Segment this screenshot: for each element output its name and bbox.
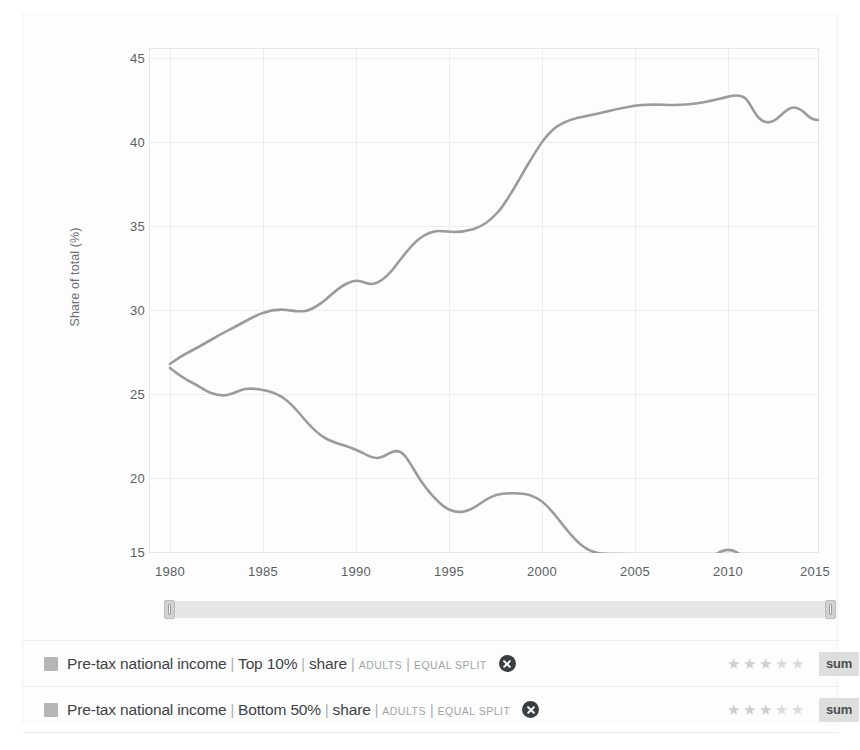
y-axis-label: Share of total (%) — [68, 187, 82, 367]
x-tick: 2010 — [713, 564, 743, 579]
y-tick: 45 — [111, 51, 145, 66]
star-icon[interactable]: ★ — [791, 702, 804, 717]
y-tick: 35 — [111, 219, 145, 234]
app-root: Share of total (%) 45 40 35 30 25 20 15 — [0, 0, 860, 750]
chart-area: Share of total (%) 45 40 35 30 25 20 15 — [23, 12, 839, 587]
y-axis-ticks: 45 40 35 30 25 20 15 — [109, 12, 145, 587]
star-icon[interactable]: ★ — [791, 656, 804, 671]
y-tick: 20 — [111, 471, 145, 486]
slider-handle-start[interactable] — [164, 600, 175, 619]
series-legend-list: Pre-tax national income | Top 10% | shar… — [23, 640, 839, 733]
y-tick: 15 — [111, 545, 145, 560]
slider-handle-end[interactable] — [825, 600, 836, 619]
series-separator: | — [297, 656, 309, 672]
series-separator: | — [321, 702, 333, 718]
legend-row-actions: ★ ★ ★ ★ ★ sum — [725, 641, 839, 686]
series-label: Pre-tax national income | Bottom 50% | s… — [67, 701, 510, 719]
y-tick: 25 — [111, 387, 145, 402]
series-population: ADULTS — [382, 705, 426, 717]
series-group: Top 10% — [238, 655, 297, 673]
star-icon[interactable]: ★ — [727, 702, 740, 717]
star-icon[interactable]: ★ — [743, 702, 756, 717]
star-icon[interactable]: ★ — [775, 702, 788, 717]
series-group: Bottom 50% — [238, 701, 321, 719]
series-source: Pre-tax national income — [67, 701, 226, 719]
series-line-bottom50 — [170, 368, 818, 553]
series-measure: share — [333, 701, 371, 719]
series-separator: | — [426, 702, 438, 718]
series-measure: share — [309, 655, 347, 673]
x-tick: 1990 — [341, 564, 371, 579]
legend-row-actions: ★ ★ ★ ★ ★ sum — [725, 687, 839, 732]
series-separator: | — [226, 656, 238, 672]
series-color-swatch[interactable] — [44, 657, 58, 671]
star-icon[interactable]: ★ — [759, 702, 772, 717]
slider-track[interactable] — [165, 601, 835, 618]
sum-button[interactable]: sum — [819, 698, 859, 722]
remove-series-icon[interactable] — [522, 701, 539, 718]
series-separator: | — [347, 656, 359, 672]
legend-row[interactable]: Pre-tax national income | Bottom 50% | s… — [23, 687, 839, 733]
remove-series-icon[interactable] — [499, 655, 516, 672]
series-separator: | — [226, 702, 238, 718]
series-separator: | — [402, 656, 414, 672]
star-icon[interactable]: ★ — [775, 656, 788, 671]
series-label: Pre-tax national income | Top 10% | shar… — [67, 655, 487, 673]
series-rating[interactable]: ★ ★ ★ ★ ★ — [725, 656, 805, 671]
x-tick: 2000 — [527, 564, 557, 579]
plot-canvas — [149, 48, 819, 553]
series-split: EQUAL SPLIT — [414, 659, 487, 671]
series-rating[interactable]: ★ ★ ★ ★ ★ — [725, 702, 805, 717]
time-range-slider[interactable] — [23, 597, 839, 623]
x-tick: 2015 — [800, 564, 830, 579]
x-tick: 1995 — [434, 564, 464, 579]
series-source: Pre-tax national income — [67, 655, 226, 673]
star-icon[interactable]: ★ — [759, 656, 772, 671]
series-color-swatch[interactable] — [44, 703, 58, 717]
series-split: EQUAL SPLIT — [438, 705, 511, 717]
series-line-top10 — [170, 95, 818, 364]
x-tick: 1980 — [155, 564, 185, 579]
y-tick: 40 — [111, 135, 145, 150]
sum-button[interactable]: sum — [819, 652, 859, 676]
star-icon[interactable]: ★ — [743, 656, 756, 671]
x-axis-ticks: 1980 1985 1990 1995 2000 2005 2010 2015 — [23, 564, 839, 586]
chart-card: Share of total (%) 45 40 35 30 25 20 15 — [22, 12, 838, 724]
star-icon[interactable]: ★ — [727, 656, 740, 671]
legend-row[interactable]: Pre-tax national income | Top 10% | shar… — [23, 640, 839, 687]
y-tick: 30 — [111, 303, 145, 318]
series-population: ADULTS — [359, 659, 403, 671]
x-tick: 2005 — [620, 564, 650, 579]
series-separator: | — [371, 702, 383, 718]
x-tick: 1985 — [248, 564, 278, 579]
